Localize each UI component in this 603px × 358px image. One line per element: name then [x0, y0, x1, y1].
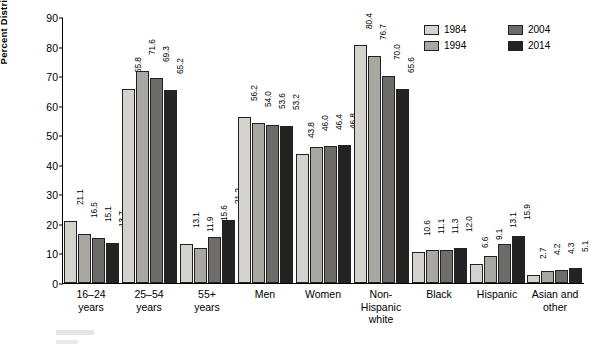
bar-column[interactable]: 11.1	[426, 18, 439, 283]
x-tick-label: Asian andother	[526, 288, 584, 332]
bar-column[interactable]: 46.8	[338, 18, 351, 283]
bar[interactable]	[296, 154, 309, 283]
bar[interactable]	[541, 271, 554, 283]
bar-column[interactable]: 43.8	[296, 18, 309, 283]
bar[interactable]	[454, 248, 467, 283]
legend-item[interactable]: 1994	[424, 40, 492, 51]
bar[interactable]	[484, 256, 497, 283]
bar[interactable]	[252, 123, 265, 283]
bar[interactable]	[164, 90, 177, 283]
bar[interactable]	[92, 238, 105, 283]
bar-group: 6.69.113.115.9	[470, 18, 525, 283]
bar-column[interactable]: 65.8	[122, 18, 135, 283]
bar-column[interactable]: 12.0	[454, 18, 467, 283]
bar-column[interactable]: 65.6	[396, 18, 409, 283]
bar[interactable]	[238, 117, 251, 283]
bar-column[interactable]: 69.3	[150, 18, 163, 283]
bar-column[interactable]: 4.2	[541, 18, 554, 283]
bar-column[interactable]: 5.1	[569, 18, 582, 283]
bar-column[interactable]: 11.3	[440, 18, 453, 283]
x-tick-label-line: Women	[294, 288, 352, 301]
bar-column[interactable]: 16.5	[78, 18, 91, 283]
bar-column[interactable]: 15.9	[512, 18, 525, 283]
bar-column[interactable]: 4.3	[555, 18, 568, 283]
bar[interactable]	[180, 244, 193, 283]
bar[interactable]	[382, 76, 395, 283]
bar[interactable]	[470, 264, 483, 284]
bar-column[interactable]: 13.1	[498, 18, 511, 283]
bar-group: 2.74.24.35.1	[527, 18, 582, 283]
legend-item[interactable]: 1984	[424, 24, 492, 35]
y-tick-label: 60	[24, 101, 63, 113]
bar[interactable]	[498, 244, 511, 283]
y-tick-label: 0	[24, 278, 63, 290]
bar[interactable]	[194, 248, 207, 283]
bar[interactable]	[396, 89, 409, 283]
bar-column[interactable]: 10.6	[412, 18, 425, 283]
bar[interactable]	[527, 275, 540, 283]
bar-group: 10.611.111.312.0	[412, 18, 467, 283]
bar-column[interactable]: 53.6	[266, 18, 279, 283]
bar[interactable]	[440, 250, 453, 283]
bar-column[interactable]: 65.2	[164, 18, 177, 283]
bar[interactable]	[368, 56, 381, 283]
bar[interactable]	[512, 236, 525, 283]
bar-column[interactable]: 54.0	[252, 18, 265, 283]
bar-column[interactable]: 70.0	[382, 18, 395, 283]
bar-column[interactable]: 13.7	[106, 18, 119, 283]
bar[interactable]	[324, 146, 337, 283]
bar[interactable]	[150, 78, 163, 283]
bar-column[interactable]: 53.2	[280, 18, 293, 283]
bar-column[interactable]: 2.7	[527, 18, 540, 283]
bar[interactable]	[222, 220, 235, 283]
bar-group: 65.871.669.365.2	[122, 18, 177, 283]
bar[interactable]	[106, 243, 119, 283]
bar[interactable]	[64, 221, 77, 283]
bar[interactable]	[280, 126, 293, 283]
bar-column[interactable]: 9.1	[484, 18, 497, 283]
bar[interactable]	[555, 270, 568, 283]
bar-column[interactable]: 15.1	[92, 18, 105, 283]
bar-column[interactable]: 46.0	[310, 18, 323, 283]
bar-column[interactable]: 6.6	[470, 18, 483, 283]
x-tick-label-line: Black	[410, 288, 468, 301]
bar-column[interactable]: 56.2	[238, 18, 251, 283]
bar[interactable]	[354, 45, 367, 283]
bar[interactable]	[426, 250, 439, 283]
bar-group: 13.111.915.621.2	[180, 18, 235, 283]
bar-column[interactable]: 15.6	[208, 18, 221, 283]
bar[interactable]	[78, 234, 91, 283]
bar-value-label: 5.1	[580, 241, 590, 252]
bar-column[interactable]: 76.7	[368, 18, 381, 283]
legend-label: 1994	[444, 40, 466, 51]
x-tick-label: Men	[236, 288, 294, 332]
bar-column[interactable]: 13.1	[180, 18, 193, 283]
x-tick-label: 55+years	[178, 288, 236, 332]
bar[interactable]	[266, 125, 279, 283]
bar[interactable]	[310, 147, 323, 283]
bar-group: 21.116.515.113.7	[64, 18, 119, 283]
legend-swatch	[424, 41, 439, 51]
y-tick-mark	[59, 284, 63, 285]
bar-column[interactable]: 21.2	[222, 18, 235, 283]
bar-column[interactable]: 11.9	[194, 18, 207, 283]
bar-column[interactable]: 71.6	[136, 18, 149, 283]
x-tick-label-line: 55+	[178, 288, 236, 301]
bar-column[interactable]: 21.1	[64, 18, 77, 283]
bar[interactable]	[208, 237, 221, 283]
x-tick-label-line: white	[352, 313, 410, 326]
x-tick-label-line: Hispanic	[352, 301, 410, 314]
scan-artifact	[56, 330, 94, 335]
x-tick-label: 25–54years	[120, 288, 178, 332]
legend-item[interactable]: 2004	[508, 24, 576, 35]
legend-item[interactable]: 2014	[508, 40, 576, 51]
bar[interactable]	[136, 71, 149, 283]
bar[interactable]	[338, 145, 351, 283]
x-tick-label: 16–24years	[62, 288, 120, 332]
bar[interactable]	[569, 268, 582, 283]
bar[interactable]	[122, 89, 135, 283]
bar[interactable]	[412, 252, 425, 283]
bar-column[interactable]: 46.4	[324, 18, 337, 283]
bar-column[interactable]: 80.4	[354, 18, 367, 283]
scan-artifact	[56, 340, 78, 344]
